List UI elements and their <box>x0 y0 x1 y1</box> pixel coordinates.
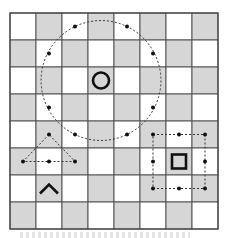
board-cell <box>62 67 88 94</box>
move-target-dot <box>73 133 77 137</box>
board-cell <box>62 40 88 67</box>
board-cell <box>192 13 218 40</box>
board-cell <box>62 94 88 121</box>
move-target-dot <box>177 187 181 191</box>
board-cell <box>10 67 36 94</box>
move-target-dot <box>203 187 207 191</box>
board-cell <box>192 67 218 94</box>
board-cell <box>10 13 36 40</box>
board-cell <box>114 175 140 202</box>
move-target-dot <box>151 133 155 137</box>
move-target-dot <box>151 187 155 191</box>
board-cell <box>166 40 192 67</box>
board-cell <box>114 202 140 229</box>
move-target-dot <box>21 160 25 164</box>
board-cell <box>166 13 192 40</box>
board-cell <box>36 67 62 94</box>
board-cell <box>10 94 36 121</box>
board-cell <box>140 67 166 94</box>
board-cell <box>36 175 62 202</box>
board-cell <box>114 148 140 175</box>
board-cell <box>114 94 140 121</box>
board-cell <box>10 202 36 229</box>
board-cell <box>62 202 88 229</box>
board-cell <box>88 175 114 202</box>
board-cell <box>88 148 114 175</box>
move-target-dot <box>47 160 51 164</box>
board-cell <box>140 202 166 229</box>
board-cell <box>88 40 114 67</box>
board-cells <box>10 13 218 229</box>
board-cell <box>192 40 218 67</box>
move-target-dot <box>47 52 51 56</box>
chessboard-diagram <box>0 0 230 238</box>
move-target-dot <box>125 133 129 137</box>
move-target-dot <box>203 160 207 164</box>
board-cell <box>88 121 114 148</box>
move-target-dot <box>73 25 77 29</box>
board-cell <box>166 94 192 121</box>
board-cell <box>114 67 140 94</box>
board-cell <box>88 94 114 121</box>
board-cell <box>10 175 36 202</box>
board-cell <box>140 13 166 40</box>
move-target-dot <box>47 106 51 110</box>
move-target-dot <box>125 25 129 29</box>
board-cell <box>166 148 192 175</box>
board-cell <box>114 40 140 67</box>
board-cell <box>166 67 192 94</box>
board-cell <box>166 202 192 229</box>
cropped-caption <box>20 232 190 238</box>
board-cell <box>10 121 36 148</box>
board-cell <box>36 13 62 40</box>
move-target-dot <box>151 160 155 164</box>
move-target-dot <box>203 133 207 137</box>
board-cell <box>62 175 88 202</box>
board-cell <box>192 202 218 229</box>
board-cell <box>88 202 114 229</box>
move-target-dot <box>151 106 155 110</box>
move-target-dot <box>47 133 51 137</box>
board-cell <box>10 40 36 67</box>
board-cell <box>88 13 114 40</box>
move-target-dot <box>151 52 155 56</box>
board-cell <box>192 94 218 121</box>
board-cell <box>36 202 62 229</box>
move-target-dot <box>177 133 181 137</box>
move-target-dot <box>73 160 77 164</box>
